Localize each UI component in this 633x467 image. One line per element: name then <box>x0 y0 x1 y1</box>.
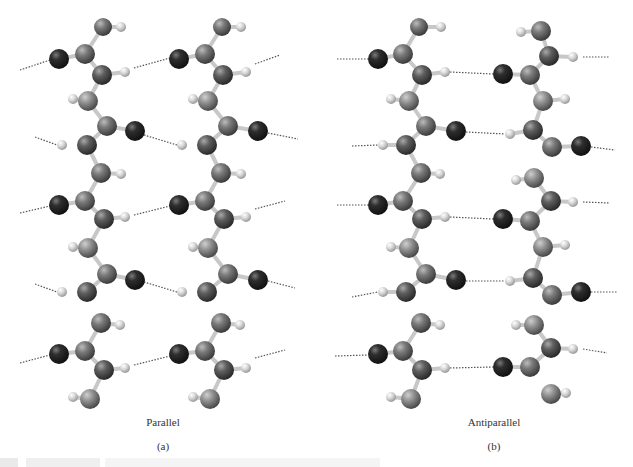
hydrogen-bond <box>35 284 57 292</box>
hydrogen-atom <box>68 242 78 252</box>
carbon-atom <box>75 341 95 361</box>
hydrogen-bond <box>352 145 378 146</box>
oxygen-atom <box>368 344 388 364</box>
nitrogen-atom <box>539 46 559 66</box>
oxygen-atom <box>493 209 513 229</box>
carbon-atom <box>542 285 562 305</box>
hydrogen-atom <box>386 242 396 252</box>
side-chain-atom <box>524 315 544 335</box>
hydrogen-atom <box>188 242 198 252</box>
side-chain-atom <box>541 384 561 404</box>
panel-b-letter: (b) <box>434 440 554 452</box>
hydrogen-atom <box>435 320 445 330</box>
oxygen-atom <box>368 49 388 69</box>
carbon-atom <box>218 264 238 284</box>
hydrogen-atom <box>188 392 198 402</box>
carbon-atom <box>97 264 117 284</box>
nitrogen-atom <box>214 209 234 229</box>
carbon-atom <box>75 44 95 64</box>
hydrogen-atom <box>236 169 246 179</box>
hydrogen-atom <box>568 197 578 207</box>
oxygen-atom <box>368 195 388 215</box>
carbon-atom <box>416 264 436 284</box>
hydrogen-atom <box>68 94 78 104</box>
nitrogen-atom <box>197 135 217 155</box>
carbon-atom <box>393 191 413 211</box>
hydrogen-bond <box>144 135 177 145</box>
hydrogen-atom <box>188 94 198 104</box>
nitrogen-atom <box>197 282 217 302</box>
hydrogen-bond <box>583 202 610 203</box>
oxygen-atom <box>446 121 466 141</box>
nitrogen-atom <box>412 360 432 380</box>
hydrogen-atom <box>116 22 126 32</box>
oxygen-atom <box>169 195 189 215</box>
carbon-atom <box>94 18 112 36</box>
hydrogen-atom <box>116 169 126 179</box>
hydrogen-atom <box>241 363 251 373</box>
hydrogen-atom <box>568 52 578 62</box>
oxygen-atom <box>248 121 268 141</box>
side-chain-atom <box>200 389 220 409</box>
carbon-atom <box>520 65 540 85</box>
oxygen-atom <box>169 344 189 364</box>
hydrogen-atom <box>115 320 125 330</box>
side-chain-atom <box>401 389 421 409</box>
nitrogen-atom <box>77 282 97 302</box>
hydrogen-atom <box>241 67 251 77</box>
carbon-atom <box>520 357 540 377</box>
hydrogen-bond <box>352 292 378 297</box>
hydrogen-atom <box>568 344 578 354</box>
hydrogen-atom <box>560 240 570 250</box>
oxygen-atom <box>125 121 145 141</box>
hydrogen-bond <box>335 355 368 356</box>
side-chain-atom <box>198 91 218 111</box>
hydrogen-bond <box>255 201 285 209</box>
oxygen-atom <box>571 282 591 302</box>
hydrogen-bond <box>20 206 50 213</box>
hydrogen-atom <box>177 287 187 297</box>
oxygen-atom <box>446 270 466 290</box>
hydrogen-atom <box>561 388 571 398</box>
hydrogen-atom <box>120 212 130 222</box>
hydrogen-bond <box>20 60 50 70</box>
oxygen-atom <box>571 136 591 156</box>
oxygen-atom <box>49 195 69 215</box>
hydrogen-atom <box>235 320 245 330</box>
nitrogen-atom <box>92 65 112 85</box>
hydrogen-atom <box>435 169 445 179</box>
carbon-atom <box>542 137 562 157</box>
oxygen-atom <box>248 270 268 290</box>
nitrogen-atom <box>412 209 432 229</box>
hydrogen-bond <box>268 281 295 288</box>
carbon-atom <box>75 191 95 211</box>
hydrogen-atom <box>120 67 130 77</box>
nitrogen-atom <box>213 65 233 85</box>
side-chain-atom <box>524 168 544 188</box>
hydrogen-atom <box>236 22 246 32</box>
hydrogen-bond <box>450 367 493 368</box>
hydrogen-atom <box>68 392 78 402</box>
carbon-atom <box>211 163 231 183</box>
carbon-atom <box>411 313 431 333</box>
carbon-atom <box>218 116 238 136</box>
hydrogen-atom <box>57 140 67 150</box>
hydrogen-atom <box>386 392 396 402</box>
carbon-atom <box>393 44 413 64</box>
side-chain-atom <box>399 238 419 258</box>
side-chain-atom <box>399 91 419 111</box>
hydrogen-atom <box>440 363 450 373</box>
carbon-atom <box>410 18 428 36</box>
cropped-caption <box>0 458 633 467</box>
nitrogen-atom <box>412 65 432 85</box>
nitrogen-atom <box>541 191 561 211</box>
hydrogen-bond <box>450 217 493 219</box>
side-chain-atom <box>78 91 98 111</box>
hydrogen-bond <box>255 55 280 64</box>
panel-b-title: Antiparallel <box>434 416 554 428</box>
carbon-atom <box>416 116 436 136</box>
hydrogen-bond <box>450 72 493 74</box>
nitrogen-atom <box>523 120 543 140</box>
carbon-atom <box>91 163 111 183</box>
hydrogen-bond <box>268 133 298 139</box>
